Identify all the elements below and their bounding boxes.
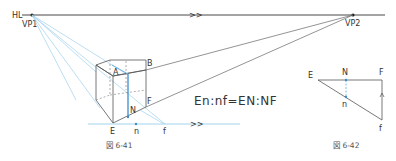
- diagonal-ff: [140, 110, 164, 124]
- label-n: N: [130, 106, 136, 115]
- label-n-lower-6-42: n: [342, 100, 347, 109]
- label-e-6-42: E: [308, 71, 313, 80]
- caption-6-41: 図 6-41: [106, 141, 133, 150]
- point-n-lower: [135, 123, 137, 125]
- cube-hidden-edges: [96, 60, 146, 100]
- label-n-6-42: N: [342, 68, 348, 77]
- caption-6-42: 図 6-42: [333, 141, 360, 150]
- cube: [96, 60, 146, 123]
- vp1-ray-5: [32, 15, 76, 100]
- label-f-lower-6-42: f: [379, 124, 382, 133]
- point-n-top-6-42: [345, 79, 347, 81]
- point-n-bottom-6-42: [345, 96, 347, 98]
- label-f-upper: F: [147, 97, 152, 106]
- vp2-label: VP2: [345, 19, 360, 28]
- vp1-ray-3: [32, 15, 96, 72]
- vp1-ray-4: [32, 15, 100, 108]
- label-a: A: [113, 68, 119, 77]
- point-n-upper: [127, 116, 129, 118]
- label-b: B: [147, 59, 153, 68]
- label-f-upper-6-42: F: [379, 68, 384, 77]
- label-f-lower: f: [163, 127, 166, 136]
- hl-label: HL: [12, 11, 23, 20]
- horizon-marker: >>: [189, 11, 202, 20]
- label-n-lower: n: [134, 127, 139, 136]
- vp2-line-top: [146, 15, 353, 70]
- label-e: E: [110, 127, 115, 136]
- ground-marker: >>: [190, 120, 203, 129]
- triangle-6-42: [318, 80, 382, 120]
- perspective-diagram: >> HL VP1 VP2 >> A B: [0, 0, 396, 161]
- equation: En:nf=EN:NF: [194, 94, 277, 108]
